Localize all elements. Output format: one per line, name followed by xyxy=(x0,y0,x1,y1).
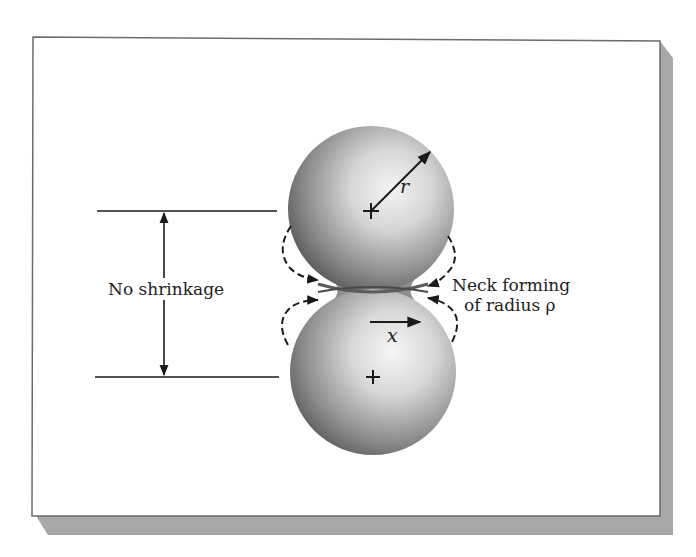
diagram-canvas: No shrinkage Neck forming of radius ρ r … xyxy=(0,0,696,557)
sintering-diagram xyxy=(0,0,696,557)
no-shrinkage-label: No shrinkage xyxy=(108,279,224,299)
neck-x-label: x xyxy=(387,325,398,345)
neck-radius-label: of radius ρ xyxy=(464,295,556,315)
neck-forming-label: Neck forming xyxy=(452,275,570,295)
radius-label: r xyxy=(400,176,409,196)
